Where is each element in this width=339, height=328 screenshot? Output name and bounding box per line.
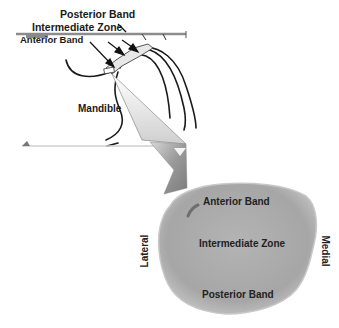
label-anterior-band: Anterior Band xyxy=(20,35,83,45)
label-mandible: Mandible xyxy=(78,104,121,114)
label-intermediate-zone: Intermediate Zone xyxy=(32,22,122,33)
disc-label-anterior-band: Anterior Band xyxy=(203,197,270,207)
tmj-disc-diagram xyxy=(0,0,339,328)
disc-sagittal xyxy=(104,44,153,74)
disc-label-medial: Medial xyxy=(320,235,330,266)
callout-chevron xyxy=(150,142,187,194)
disc-label-lateral: Lateral xyxy=(140,235,150,268)
disc-label-intermediate-zone: Intermediate Zone xyxy=(199,239,285,249)
label-posterior-band: Posterior Band xyxy=(60,9,135,20)
disc-label-posterior-band: Posterior Band xyxy=(202,290,274,300)
projection-beam xyxy=(112,74,186,144)
